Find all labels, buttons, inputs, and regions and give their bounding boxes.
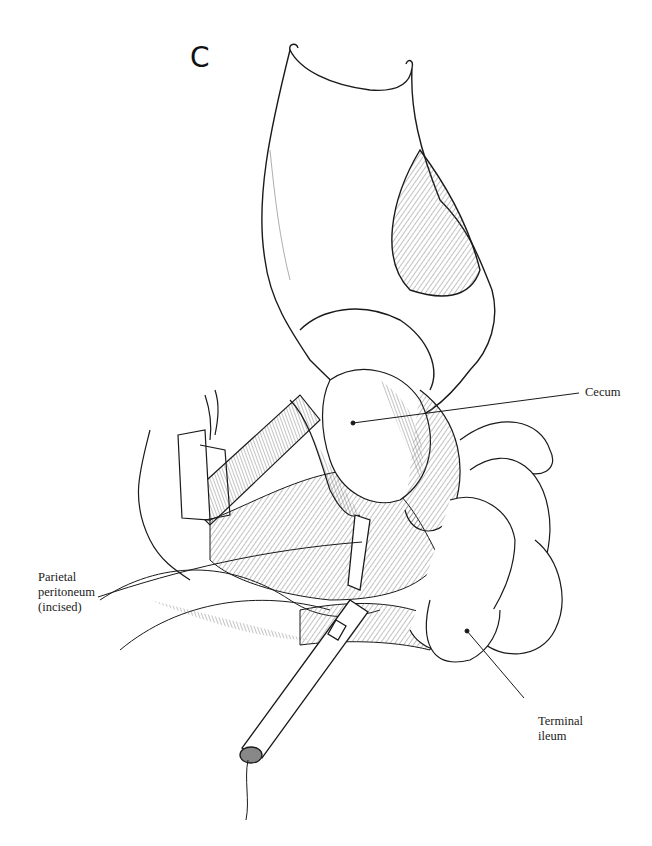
panel-letter: C	[190, 44, 210, 72]
label-terminal-ileum: Terminal ileum	[538, 714, 583, 744]
label-parietal-peritoneum: Parietal peritoneum (incised)	[38, 570, 95, 615]
label-cecum: Cecum	[585, 385, 620, 400]
gloved-hand	[262, 44, 495, 422]
surgical-illustration: C Cecum Parietal peritoneum (incised) Te…	[0, 0, 652, 846]
